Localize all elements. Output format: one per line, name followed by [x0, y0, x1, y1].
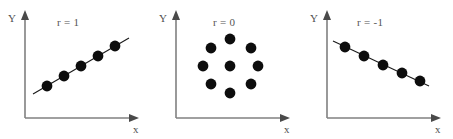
data-point: [246, 79, 257, 90]
scatter-panel-negative: Y x r = -1: [302, 0, 453, 139]
correlation-figure: Y x r = 1 Y: [0, 0, 453, 139]
data-point: [225, 88, 236, 99]
data-point: [253, 61, 264, 72]
x-axis-arrow-icon: [431, 114, 441, 122]
data-point: [93, 51, 104, 62]
data-point: [225, 34, 236, 45]
data-point: [359, 51, 370, 62]
x-axis-arrow-icon: [280, 114, 290, 122]
correlation-label: r = 0: [213, 16, 236, 28]
y-axis-label: Y: [310, 12, 318, 24]
data-point: [246, 43, 257, 54]
x-axis-label: x: [435, 123, 441, 135]
data-point: [110, 41, 121, 52]
data-point: [225, 61, 236, 72]
data-point: [59, 71, 70, 82]
data-points-group: [198, 34, 264, 99]
data-point: [42, 81, 53, 92]
y-axis-arrow-icon: [21, 10, 29, 20]
data-point: [76, 61, 87, 72]
y-axis-label: Y: [159, 12, 167, 24]
correlation-label: r = -1: [357, 16, 383, 28]
y-axis-label: Y: [8, 12, 16, 24]
data-point: [415, 76, 426, 87]
data-points-group: [42, 41, 121, 92]
y-axis-arrow-icon: [323, 10, 331, 20]
x-axis-label: x: [284, 123, 290, 135]
y-axis-arrow-icon: [172, 10, 180, 20]
data-point: [206, 43, 217, 54]
data-points-group: [340, 42, 426, 87]
data-point: [198, 61, 209, 72]
x-axis-arrow-icon: [129, 114, 139, 122]
correlation-label: r = 1: [57, 16, 79, 28]
data-point: [340, 42, 351, 53]
x-axis-label: x: [133, 123, 139, 135]
scatter-panel-positive: Y x r = 1: [0, 0, 151, 139]
data-point: [397, 68, 408, 79]
scatter-panel-zero: Y x r = 0: [151, 0, 302, 139]
data-point: [378, 60, 389, 71]
data-point: [206, 79, 217, 90]
